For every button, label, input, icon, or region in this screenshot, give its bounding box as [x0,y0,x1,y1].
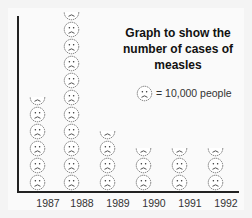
column-1992 [204,148,226,191]
sad-face-icon [171,148,188,157]
sad-face-icon [63,38,80,55]
sad-face-icon [29,174,46,191]
sad-face-icon [63,174,80,191]
sad-face-icon [207,174,224,191]
column-1990 [132,148,154,191]
column-1989 [96,131,118,191]
sad-face-icon [135,174,152,191]
sad-face-icon [63,72,80,89]
sad-face-icon [29,97,46,106]
x-tick-1988: 1988 [64,197,100,209]
sad-face-icon [63,55,80,72]
sad-face-icon [135,148,152,157]
sad-face-icon [171,157,188,174]
sad-face-icon [99,174,116,191]
partial-face-icon [99,131,116,140]
sad-face-icon [63,21,80,38]
sad-face-icon [29,106,46,123]
sad-face-icon [29,140,46,157]
sad-face-icon [207,148,224,157]
partial-face-icon [63,12,80,21]
sad-face-icon [63,123,80,140]
sad-face-icon [99,140,116,157]
sad-face-icon [135,157,152,174]
sad-face-icon [99,131,116,140]
sad-face-icon [63,89,80,106]
partial-face-icon [135,148,152,157]
y-axis [17,16,19,192]
x-tick-1989: 1989 [100,197,136,209]
column-1991 [168,148,190,191]
sad-face-icon [171,174,188,191]
x-tick-1992: 1992 [208,197,244,209]
sad-face-icon [99,157,116,174]
column-1987 [26,97,48,191]
legend: = 10,000 people [136,82,232,104]
partial-face-icon [207,148,224,157]
column-1988 [60,12,82,191]
x-tick-1991: 1991 [172,197,208,209]
x-axis [17,191,239,193]
partial-face-icon [29,97,46,106]
sad-face-icon [63,106,80,123]
sad-face-icon [63,12,80,21]
sad-face-icon [63,140,80,157]
x-tick-1990: 1990 [136,197,172,209]
sad-face-icon [29,157,46,174]
chart-title: Graph to show the number of cases of mea… [108,25,248,73]
sad-face-icon [136,85,153,102]
x-tick-1987: 1987 [30,197,66,209]
sad-face-icon [29,123,46,140]
partial-face-icon [171,148,188,157]
sad-face-icon [207,157,224,174]
sad-face-icon [63,157,80,174]
legend-label: = 10,000 people [156,87,232,99]
